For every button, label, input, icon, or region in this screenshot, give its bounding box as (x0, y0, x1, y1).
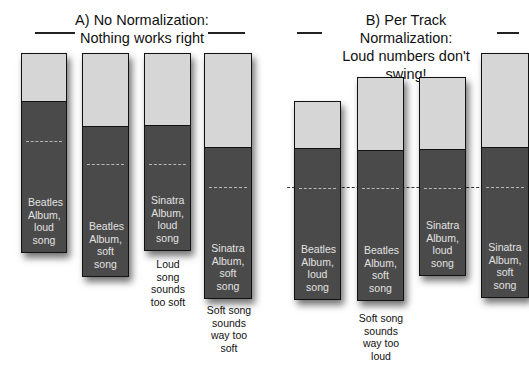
headroom-segment (295, 102, 340, 149)
bar-b-beatles-loud: Beatles Album, loud song (294, 101, 341, 300)
loudness-dash (209, 187, 247, 188)
bar-label: Sinatra Album, soft song (482, 241, 528, 291)
headroom-segment (358, 78, 403, 151)
bar-label: Beatles Album, soft song (83, 220, 128, 270)
note-a-sinatra-loud: Loud song sounds too soft (146, 258, 190, 308)
bar-label: Beatles Album, soft song (358, 244, 403, 294)
headroom-segment (22, 54, 66, 102)
loudness-dash (486, 187, 524, 188)
title-rule-left-a (35, 32, 75, 34)
bar-label: Sinatra Album, loud song (420, 219, 465, 269)
loudness-dash (149, 164, 186, 165)
note-b-beatles-soft: Soft song sounds way too loud (356, 312, 406, 362)
bar-a-sinatra-loud: Sinatra Album, loud song (144, 53, 191, 251)
panel-b-title: B) Per Track Normalization: Loud numbers… (326, 11, 486, 83)
loudness-dash (87, 164, 124, 165)
panel-a-title-line2: Nothing works right (75, 29, 209, 47)
loudness-dash (299, 188, 336, 189)
bar-label: Beatles Album, loud song (22, 196, 66, 246)
headroom-segment (205, 54, 251, 148)
headroom-segment (83, 54, 128, 127)
loudness-dash (26, 141, 62, 142)
panel-a-title-line1: A) No Normalization: (75, 11, 209, 29)
panel-b-title-line1: B) Per Track Normalization: (326, 11, 486, 47)
loudness-dash (362, 188, 399, 189)
bar-label: Sinatra Album, loud song (145, 194, 190, 244)
panel-a-title: A) No Normalization: Nothing works right (75, 11, 209, 47)
bar-a-beatles-loud: Beatles Album, loud song (21, 53, 67, 253)
bar-b-beatles-soft: Beatles Album, soft song (357, 77, 404, 301)
bar-label: Sinatra Album, soft song (205, 242, 251, 292)
bar-a-sinatra-soft: Sinatra Album, soft song (204, 53, 252, 299)
headroom-segment (420, 78, 465, 150)
loudness-dash (424, 188, 461, 189)
title-rule-right-b (497, 32, 519, 34)
title-rule-left-b (297, 32, 322, 34)
bar-b-sinatra-soft: Sinatra Album, soft song (481, 53, 529, 298)
headroom-segment (145, 54, 190, 126)
headroom-segment (482, 54, 528, 148)
bar-label: Beatles Album, loud song (295, 243, 340, 293)
bar-a-beatles-soft: Beatles Album, soft song (82, 53, 129, 277)
bar-b-sinatra-loud: Sinatra Album, loud song (419, 77, 466, 276)
title-rule-right-a (208, 32, 245, 34)
note-a-sinatra-soft: Soft song sounds way too soft (206, 304, 252, 354)
